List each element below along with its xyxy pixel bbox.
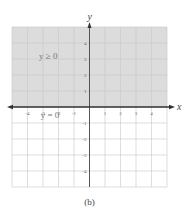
x-tick-label: 4 (150, 111, 153, 116)
y-axis-arrow (88, 22, 92, 28)
y-tick-label: -2 (82, 137, 87, 142)
x-tick-label: -1 (72, 111, 77, 116)
y-tick-label: -1 (82, 121, 87, 126)
x-axis-label: x (176, 101, 182, 112)
x-axis-arrow-left (7, 105, 13, 109)
y-tick-label: -4 (82, 169, 87, 174)
figure-caption: (b) (84, 197, 95, 207)
y-axis-label: y (87, 11, 93, 22)
x-tick-label: 1 (104, 111, 107, 116)
x-axis-arrow-right (169, 105, 175, 109)
region-label: y ≥ 0 (39, 51, 58, 61)
boundary-label: y = 0 (41, 110, 60, 120)
inequality-graph: -4-3-2-11234-4-3-2-11234 x y y ≥ 0 y = 0… (0, 0, 183, 220)
x-tick-label: -4 (25, 111, 30, 116)
x-tick-label: 2 (119, 111, 122, 116)
x-tick-label: 3 (135, 111, 138, 116)
y-tick-label: -3 (82, 153, 87, 158)
